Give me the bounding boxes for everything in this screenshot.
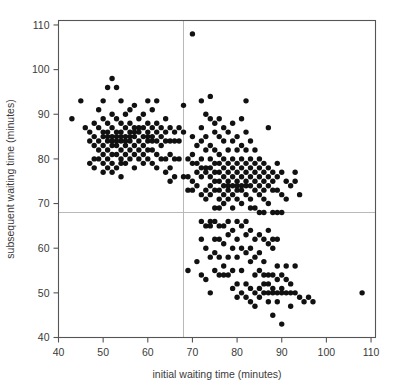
x-axis-title: initial waiting time (minutes) xyxy=(153,368,282,380)
data-point xyxy=(145,156,150,161)
x-axis-tick-label: 40 xyxy=(53,346,65,358)
data-point xyxy=(199,174,204,179)
data-point xyxy=(136,116,141,121)
data-point xyxy=(301,299,306,304)
data-point xyxy=(230,286,235,291)
data-point xyxy=(100,116,105,121)
data-point xyxy=(230,228,235,233)
data-point xyxy=(284,179,289,184)
data-point xyxy=(123,125,128,130)
data-point xyxy=(163,170,168,175)
data-point xyxy=(266,281,271,286)
data-point xyxy=(257,268,262,273)
data-point xyxy=(217,170,222,175)
data-point xyxy=(239,116,244,121)
data-point xyxy=(114,116,119,121)
data-point xyxy=(234,254,239,259)
data-point xyxy=(288,281,293,286)
data-point xyxy=(167,125,172,130)
data-point xyxy=(270,272,275,277)
data-point xyxy=(208,254,213,259)
data-point xyxy=(248,183,253,188)
data-point xyxy=(234,237,239,242)
scatter-plot-figure: 405060708090100110 405060708090100110 in… xyxy=(0,0,399,390)
data-point xyxy=(212,219,217,224)
data-point xyxy=(154,152,159,157)
data-point xyxy=(208,143,213,148)
data-point xyxy=(136,138,141,143)
data-point xyxy=(167,165,172,170)
plot-canvas: 405060708090100110 405060708090100110 in… xyxy=(0,0,399,390)
data-point xyxy=(150,161,155,166)
data-point xyxy=(145,120,150,125)
data-point xyxy=(248,174,253,179)
data-point xyxy=(78,98,83,103)
data-point xyxy=(248,156,253,161)
data-point xyxy=(203,187,208,192)
data-point xyxy=(100,98,105,103)
data-point xyxy=(217,187,222,192)
data-point xyxy=(199,98,204,103)
data-point xyxy=(208,183,213,188)
x-axis-tick-label: 80 xyxy=(231,346,243,358)
data-point xyxy=(190,179,195,184)
data-point xyxy=(194,170,199,175)
data-point xyxy=(208,174,213,179)
data-point xyxy=(141,161,146,166)
data-point xyxy=(154,129,159,134)
data-point xyxy=(114,143,119,148)
data-point xyxy=(203,134,208,139)
data-point xyxy=(203,147,208,152)
data-point xyxy=(252,254,257,259)
data-point xyxy=(208,156,213,161)
data-point xyxy=(141,112,146,117)
data-point xyxy=(92,134,97,139)
data-point xyxy=(221,241,226,246)
data-point xyxy=(136,147,141,152)
y-axis-tick-label: 110 xyxy=(33,19,50,31)
data-point xyxy=(279,192,284,197)
data-point xyxy=(185,156,190,161)
data-point xyxy=(217,152,222,157)
data-point xyxy=(203,196,208,201)
data-point xyxy=(239,290,244,295)
data-point xyxy=(208,94,213,99)
x-axis-tick-label: 50 xyxy=(97,346,109,358)
data-point xyxy=(230,268,235,273)
data-point xyxy=(163,156,168,161)
data-point xyxy=(292,290,297,295)
data-point xyxy=(208,192,213,197)
data-point xyxy=(243,98,248,103)
data-point xyxy=(123,112,128,117)
data-point xyxy=(275,263,280,268)
data-point xyxy=(248,259,253,264)
data-point xyxy=(172,129,177,134)
data-point xyxy=(105,120,110,125)
data-point xyxy=(167,179,172,184)
data-point xyxy=(230,156,235,161)
data-point xyxy=(225,219,230,224)
data-point xyxy=(248,196,253,201)
data-point xyxy=(127,120,132,125)
data-point xyxy=(284,196,289,201)
data-point xyxy=(199,138,204,143)
data-point xyxy=(176,156,181,161)
data-point xyxy=(292,179,297,184)
plot-frame xyxy=(59,21,376,338)
data-point xyxy=(69,116,74,121)
data-point xyxy=(96,147,101,152)
data-point xyxy=(221,192,226,197)
data-point xyxy=(123,152,128,157)
data-point xyxy=(92,120,97,125)
data-point xyxy=(221,174,226,179)
data-point xyxy=(96,125,101,130)
data-point xyxy=(105,147,110,152)
data-point-group xyxy=(69,31,365,327)
data-point xyxy=(217,134,222,139)
data-point xyxy=(127,107,132,112)
data-point xyxy=(288,304,293,309)
data-point xyxy=(212,250,217,255)
data-point xyxy=(234,219,239,224)
data-point xyxy=(145,98,150,103)
data-point xyxy=(252,237,257,242)
